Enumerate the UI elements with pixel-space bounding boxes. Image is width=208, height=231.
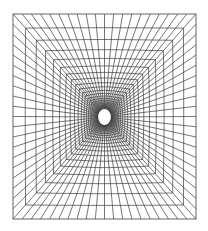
mesh-diagram: Structured quadrilateral mesh around a c… bbox=[0, 0, 208, 231]
mesh-svg bbox=[0, 0, 208, 231]
circular-hole bbox=[98, 109, 112, 126]
